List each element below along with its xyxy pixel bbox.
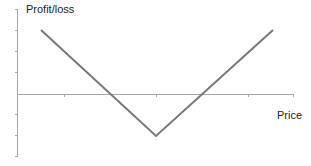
y-axis-label: Profit/loss — [26, 4, 74, 15]
x-axis — [17, 94, 294, 97]
chart-plot — [0, 0, 311, 166]
payoff-chart: Profit/loss Price — [0, 0, 311, 166]
payoff-line — [41, 30, 273, 136]
y-axis — [15, 9, 18, 157]
x-axis-label: Price — [277, 110, 302, 121]
